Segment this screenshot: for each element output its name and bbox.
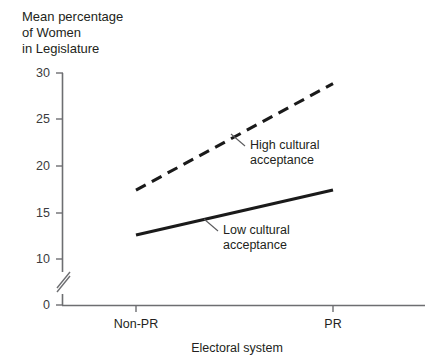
y-tick-label-30: 30 <box>36 66 50 80</box>
y-axis-title-line-2: of Women <box>22 25 81 40</box>
y-tick-label-15: 15 <box>36 206 50 220</box>
x-axis-title: Electoral system <box>191 341 283 355</box>
leader-line-low-cultural-acceptance <box>204 219 218 231</box>
annotation-low-cultural-acceptance-line-2: acceptance <box>223 238 287 252</box>
y-axis-title-line-1: Mean percentage <box>22 9 123 24</box>
chart-container: Mean percentage of Women in Legislature … <box>0 0 445 363</box>
annotation-high-cultural-acceptance-line-1: High cultural <box>250 138 319 152</box>
line-chart: Mean percentage of Women in Legislature … <box>0 0 445 363</box>
y-axis-break-icon <box>57 272 70 294</box>
annotation-low-cultural-acceptance-line-1: Low cultural <box>223 223 290 237</box>
y-axis-title-line-3: in Legislature <box>22 41 99 56</box>
y-tick-label-20: 20 <box>36 159 50 173</box>
y-tick-label-25: 25 <box>36 112 50 126</box>
y-tick-label-0: 0 <box>43 298 50 312</box>
x-tick-label-non-pr: Non-PR <box>114 317 158 331</box>
x-tick-label-pr: PR <box>324 317 341 331</box>
annotation-high-cultural-acceptance-line-2: acceptance <box>250 153 314 167</box>
y-tick-label-10: 10 <box>36 252 50 266</box>
